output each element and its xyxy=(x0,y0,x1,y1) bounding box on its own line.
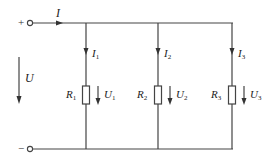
circuit-svg xyxy=(0,0,267,165)
source-voltage-label: U xyxy=(25,73,34,84)
resistor-r3 xyxy=(229,86,236,104)
total-current-label: I xyxy=(56,8,60,19)
resistor-r2 xyxy=(155,86,162,104)
u1-arrow-icon xyxy=(96,98,101,105)
positive-sign: + xyxy=(18,17,24,28)
branch-3-current-label: I3 xyxy=(238,48,245,63)
branch-1-current-label: I1 xyxy=(92,48,99,63)
negative-sign: − xyxy=(18,143,24,154)
resistor-r1-label: R1 xyxy=(66,89,76,104)
source-voltage-arrow-icon xyxy=(17,96,22,104)
voltage-u1-label: U1 xyxy=(104,89,115,104)
resistor-r1 xyxy=(83,86,90,104)
voltage-u3-label: U3 xyxy=(250,89,261,104)
voltage-u2-label: U2 xyxy=(176,89,187,104)
branch-2-current-label: I2 xyxy=(164,48,171,63)
total-current-arrow-icon xyxy=(56,21,63,26)
negative-terminal xyxy=(27,146,32,151)
branch-3-current-arrow-icon xyxy=(230,48,235,55)
parallel-circuit-diagram: + − I U I1 R1 U1 I2 R2 U2 I3 R3 U3 xyxy=(0,0,267,165)
u2-arrow-icon xyxy=(168,98,173,105)
u3-arrow-icon xyxy=(242,98,247,105)
positive-terminal xyxy=(27,20,32,25)
resistor-r2-label: R2 xyxy=(137,89,147,104)
resistor-r3-label: R3 xyxy=(211,89,221,104)
branch-2-current-arrow-icon xyxy=(156,48,161,55)
branch-1-current-arrow-icon xyxy=(84,48,89,55)
